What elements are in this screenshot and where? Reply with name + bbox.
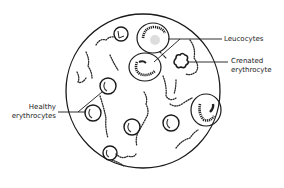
label-healthy-line2: erythrocytes xyxy=(12,112,57,120)
crenated-erythrocyte xyxy=(174,54,188,68)
label-leucocytes: Leucocytes xyxy=(224,35,264,43)
erythrocyte xyxy=(163,115,179,131)
healthy-erythrocytes xyxy=(85,27,179,160)
label-healthy-line1: Healthy xyxy=(29,103,56,111)
healthy-leader xyxy=(58,92,102,112)
dotted-strands xyxy=(77,37,198,166)
erythrocyte xyxy=(103,146,117,160)
leucocyte xyxy=(137,23,169,53)
leucocyte xyxy=(129,53,161,81)
erythrocyte xyxy=(114,27,128,41)
erythrocyte xyxy=(124,119,140,135)
blood-smear-diagram: Leucocytes Crenated erythrocyte Healthy … xyxy=(0,0,284,188)
erythrocyte xyxy=(85,105,101,121)
label-crenated-line1: Crenated xyxy=(231,57,263,65)
label-crenated-line2: erythrocyte xyxy=(231,66,272,74)
leucocyte xyxy=(191,94,221,126)
erythrocyte xyxy=(100,78,116,94)
